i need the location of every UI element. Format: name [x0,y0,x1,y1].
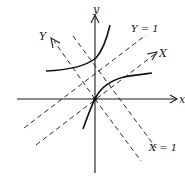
X-equals-1-label: X = 1 [148,142,177,153]
line-Y-equals-1 [24,35,146,128]
Y-axis-label: Y [39,30,48,43]
X-axis-label: X [158,47,168,60]
diagram-canvas: x y Y X Y = 1 X = 1 [0,0,185,178]
origin-point [93,97,97,101]
y-axis-label: y [92,3,100,16]
line-X-equals-1 [73,36,156,148]
line-X-equals-0-extension [95,99,141,161]
curve-lower-branch [83,73,152,129]
Y-equals-1-label: Y = 1 [131,23,159,34]
x-axis-label: x [179,93,185,106]
curve-upper-branch [46,25,110,71]
